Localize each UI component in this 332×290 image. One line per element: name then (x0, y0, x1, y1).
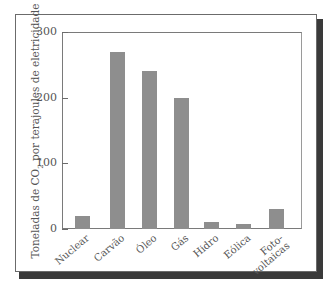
y-tick (62, 32, 68, 33)
y-tick-label: 300 (27, 26, 57, 38)
y-tick-label: 0 (27, 223, 57, 235)
bar-carv-o (110, 52, 125, 229)
y-tick-label: 200 (27, 92, 57, 104)
y-tick (62, 229, 68, 230)
bar-hidro (204, 222, 219, 229)
y-tick (62, 163, 68, 164)
bar--leo (142, 71, 157, 229)
y-tick (62, 98, 68, 99)
bar-foto-voltaicas (269, 209, 284, 229)
y-axis-label: Toneladas de CO2 por terajoules de eletr… (29, 3, 44, 258)
bar-nuclear (75, 216, 90, 229)
y-tick-label: 100 (27, 157, 57, 169)
bar-g-s (174, 98, 189, 229)
bar-e-lica (236, 224, 251, 229)
